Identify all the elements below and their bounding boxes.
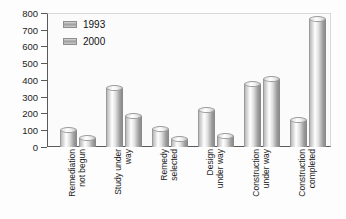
bar-cap (79, 135, 96, 141)
bar-1993 (60, 130, 77, 147)
y-tick-label: 700 (22, 26, 38, 35)
legend-item-2000: 2000 (63, 35, 153, 48)
legend-swatch-icon (63, 38, 77, 45)
bar-cap (290, 117, 307, 123)
bar-2000 (79, 138, 96, 147)
legend-label: 1993 (83, 20, 105, 30)
y-tick-label: 0 (33, 143, 38, 152)
bar-cap (198, 107, 215, 113)
bar-1993 (198, 110, 215, 147)
x-tick-label: Construction completed (298, 149, 317, 213)
x-axis-labels: Remediation not begun Study under way Re… (48, 149, 330, 219)
bar-1993 (106, 88, 123, 147)
y-tick-label: 800 (22, 9, 38, 18)
legend: 1993 2000 (63, 18, 153, 52)
legend-item-1993: 1993 (63, 18, 153, 31)
x-tick-label: Construction under way (252, 149, 271, 213)
y-tick-label: 600 (22, 42, 38, 51)
bar-cap (152, 126, 169, 132)
bar-1993 (152, 129, 169, 147)
bar-2000 (171, 139, 188, 147)
bar-2000 (309, 19, 326, 147)
y-axis: 800 700 600 500 400 300 200 100 0 (0, 0, 47, 160)
x-tick-label: Remediation not begun (68, 149, 87, 213)
y-tick-label: 500 (22, 59, 38, 68)
bar-cap (171, 136, 188, 142)
y-tick-label: 200 (22, 109, 38, 118)
bar-2000 (125, 116, 142, 147)
legend-label: 2000 (83, 37, 105, 47)
bar-1993 (290, 120, 307, 147)
bar-cap (244, 81, 261, 87)
bar-cap (309, 16, 326, 22)
bar-1993 (244, 84, 261, 147)
bar-cap (60, 127, 77, 133)
x-tick-label: Design under way (206, 149, 225, 213)
x-tick-label: Study under way (114, 149, 133, 213)
bar-chart: 800 700 600 500 400 300 200 100 0 (0, 0, 346, 219)
bar-cap (106, 85, 123, 91)
y-tick-label: 300 (22, 93, 38, 102)
bar-cap (217, 133, 234, 139)
bar-cap (263, 76, 280, 82)
bar-2000 (217, 136, 234, 147)
y-tick-label: 100 (22, 126, 38, 135)
bar-2000 (263, 79, 280, 147)
y-tick-mark (41, 147, 47, 148)
y-tick-label: 400 (22, 76, 38, 85)
bar-cap (125, 113, 142, 119)
legend-swatch-icon (63, 21, 77, 28)
x-tick-label: Remedy selected (160, 149, 179, 213)
